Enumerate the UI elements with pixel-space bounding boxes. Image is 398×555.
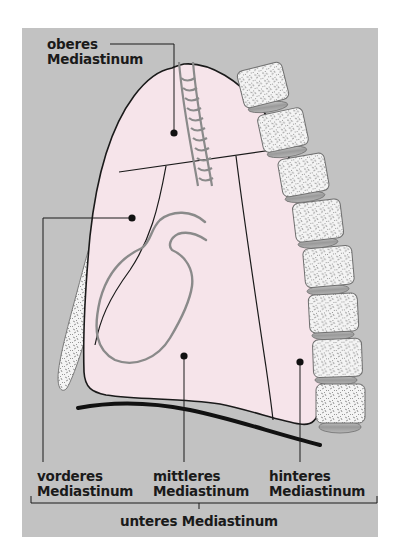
label-hinteres-line2: Mediastinum [269, 484, 365, 499]
label-hinteres-line1: hinteres [269, 469, 365, 484]
label-vorderes-mediastinum: vorderes Mediastinum [37, 469, 133, 499]
label-mittleres-line2: Mediastinum [153, 484, 249, 499]
label-vorderes-line2: Mediastinum [37, 484, 133, 499]
marker-oberes [170, 129, 177, 136]
marker-vorderes [128, 214, 135, 221]
label-mittleres-line1: mittleres [153, 469, 249, 484]
label-unteres-mediastinum: unteres Mediastinum [0, 514, 398, 529]
marker-hinteres [296, 358, 303, 365]
label-oberes-mediastinum: oberes Mediastinum [47, 37, 143, 67]
marker-mittleres [180, 352, 187, 359]
label-oberes-line2: Mediastinum [47, 52, 143, 67]
mediastinum-diagram: oberes Mediastinum vorderes Mediastinum … [0, 0, 398, 555]
label-oberes-line1: oberes [47, 37, 143, 52]
label-mittleres-mediastinum: mittleres Mediastinum [153, 469, 249, 499]
label-vorderes-line1: vorderes [37, 469, 133, 484]
label-hinteres-mediastinum: hinteres Mediastinum [269, 469, 365, 499]
